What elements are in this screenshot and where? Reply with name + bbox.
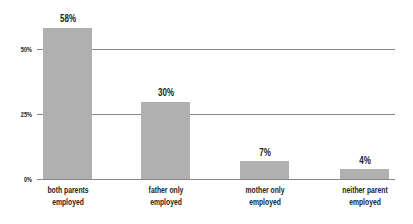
bar-chart: 0% 25% 50% 58% 30% 7% 4% both parents em… xyxy=(0,0,413,224)
bar-father-only xyxy=(141,102,190,179)
y-tick-label-0: 0% xyxy=(8,176,32,183)
value-label-both-parents: 58% xyxy=(44,13,92,24)
y-tick-label-25: 25% xyxy=(8,111,32,118)
category-label-mother-only: mother only employed xyxy=(233,184,297,208)
bar-both-parents xyxy=(43,28,92,179)
gridline-50 xyxy=(43,49,395,50)
baseline xyxy=(43,179,395,180)
bar-neither-parent xyxy=(340,169,389,179)
category-label-neither-parent: neither parent employed xyxy=(333,184,397,208)
category-label-both-parents: both parents employed xyxy=(36,184,100,208)
category-label-father-only: father only employed xyxy=(134,184,198,208)
bar-mother-only xyxy=(240,161,289,179)
value-label-neither-parent: 4% xyxy=(341,155,389,166)
gridline-25 xyxy=(43,114,395,115)
value-label-mother-only: 7% xyxy=(241,147,289,158)
y-tick-label-50: 50% xyxy=(8,46,32,53)
value-label-father-only: 30% xyxy=(142,87,190,98)
